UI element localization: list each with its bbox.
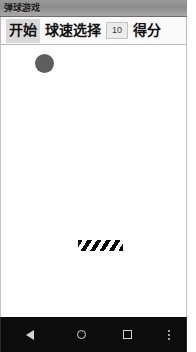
ball-speed-label: 球速选择 [45, 22, 101, 39]
square-icon [123, 330, 132, 339]
ball-speed-input[interactable]: 10 [106, 22, 128, 39]
score-label: 得分 [133, 22, 161, 39]
ball [35, 54, 54, 73]
triangle-left-icon [26, 330, 34, 340]
android-navigation-bar [0, 317, 187, 352]
nav-recent-button[interactable] [104, 317, 151, 352]
screen-gutter [187, 0, 196, 352]
window-title: 弹球游戏 [0, 3, 40, 13]
phone-screen: 弹球游戏 开始 球速选择 10 得分 [0, 0, 196, 352]
game-toolbar: 开始 球速选择 10 得分 [0, 17, 187, 45]
circle-icon [77, 330, 86, 339]
paddle[interactable] [78, 240, 123, 251]
nav-home-button[interactable] [58, 317, 104, 352]
nav-back-button[interactable] [1, 317, 58, 352]
game-canvas[interactable] [0, 45, 187, 317]
start-button[interactable]: 开始 [6, 19, 40, 43]
window-title-bar: 弹球游戏 [0, 0, 187, 17]
nav-menu-button[interactable] [151, 317, 186, 352]
overflow-dots-icon [168, 330, 170, 340]
